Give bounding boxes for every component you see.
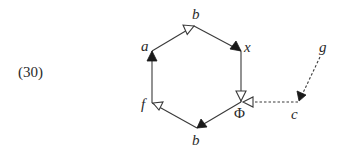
node-label-phi: Φ: [234, 106, 245, 121]
node-label-x: x: [244, 40, 251, 55]
node-label-b-bottom: b: [192, 133, 200, 148]
diagram-figure: (30) a b x Φ b: [0, 0, 346, 151]
node-label-c: c: [291, 107, 298, 122]
node-label-a: a: [141, 39, 149, 54]
filled-arrowhead-icon: [297, 91, 306, 101]
node-label-g: g: [319, 40, 327, 55]
node-label-b-top: b: [192, 7, 200, 22]
node-label-f: f: [141, 97, 145, 112]
filled-arrowhead-icon: [147, 51, 157, 61]
edge-g-to-c-dashed: [302, 57, 320, 95]
open-arrowhead-icon: [236, 91, 246, 101]
open-arrowhead-icon: [182, 25, 194, 35]
hexagon-graph: [0, 0, 346, 151]
